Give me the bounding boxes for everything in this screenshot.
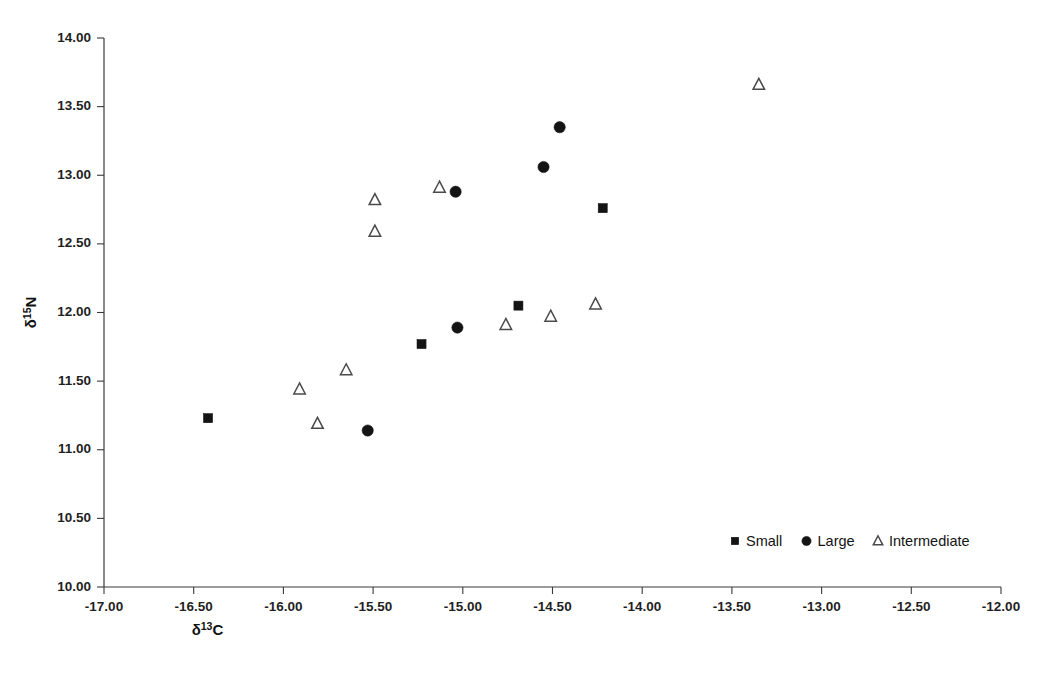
y-axis-title-base: δ	[22, 319, 39, 328]
data-point-large	[450, 186, 461, 197]
data-point-intermediate	[590, 298, 602, 309]
y-tick-label: 13.50	[57, 98, 91, 113]
legend-marker-intermediate	[873, 536, 882, 545]
x-tick-label: -13.00	[802, 599, 840, 614]
x-tick-label: -13.50	[713, 599, 751, 614]
x-axis-title-element: C	[212, 621, 223, 638]
x-axis: -17.00-16.50-16.00-15.50-15.00-14.50-14.…	[85, 587, 1020, 614]
data-point-small	[514, 301, 523, 310]
data-point-small	[417, 340, 426, 349]
data-point-intermediate	[434, 181, 446, 192]
y-axis-title-superscript: 15	[21, 307, 33, 319]
x-axis-title-superscript: 13	[201, 620, 213, 632]
data-points-layer	[204, 78, 765, 436]
legend-marker-large	[802, 536, 811, 545]
legend-label-large: Large	[818, 533, 855, 549]
x-tick-label: -12.50	[892, 599, 930, 614]
y-tick-label: 13.00	[57, 167, 91, 182]
data-point-intermediate	[294, 383, 306, 394]
series-intermediate	[294, 78, 765, 428]
data-point-intermediate	[340, 364, 352, 375]
x-tick-label: -16.50	[175, 599, 213, 614]
x-tick-label: -15.50	[354, 599, 392, 614]
x-tick-label: -16.00	[264, 599, 302, 614]
y-tick-label: 11.00	[58, 441, 91, 456]
x-tick-label: -14.00	[623, 599, 661, 614]
y-axis-title-element: N	[22, 297, 39, 308]
data-point-intermediate	[753, 78, 765, 89]
data-point-small	[598, 204, 607, 213]
x-tick-label: -14.50	[533, 599, 571, 614]
y-tick-label: 11.50	[58, 373, 91, 388]
scatter-chart: 10.0010.5011.0011.5012.0012.5013.0013.50…	[0, 0, 1047, 677]
data-point-large	[554, 122, 565, 133]
x-tick-label: -12.00	[982, 599, 1020, 614]
data-point-intermediate	[369, 194, 381, 205]
x-axis-title: δ13C	[192, 620, 224, 638]
x-axis-title-base: δ	[192, 621, 201, 638]
y-tick-label: 12.50	[57, 235, 91, 250]
y-axis: 10.0010.5011.0011.5012.0012.5013.0013.50…	[57, 30, 104, 594]
data-point-large	[538, 161, 549, 172]
y-tick-label: 12.00	[57, 304, 91, 319]
data-point-intermediate	[312, 417, 324, 428]
data-point-intermediate	[545, 310, 557, 321]
legend-label-intermediate: Intermediate	[889, 533, 970, 549]
legend-label-small: Small	[746, 533, 782, 549]
data-point-intermediate	[369, 225, 381, 236]
data-point-large	[362, 425, 373, 436]
data-point-small	[204, 414, 213, 423]
y-axis-title: δ15N	[21, 297, 39, 329]
y-axis-title-group: δ15N	[21, 297, 39, 329]
chart-canvas: 10.0010.5011.0011.5012.0012.5013.0013.50…	[0, 0, 1047, 677]
legend-marker-small	[731, 537, 738, 544]
y-tick-label: 14.00	[57, 30, 91, 45]
y-tick-label: 10.50	[57, 510, 91, 525]
data-point-large	[452, 322, 463, 333]
y-tick-label: 10.00	[57, 579, 91, 594]
x-tick-label: -17.00	[85, 599, 123, 614]
x-tick-label: -15.00	[444, 599, 482, 614]
series-small	[204, 204, 608, 423]
data-point-intermediate	[500, 318, 512, 329]
chart-legend: SmallLargeIntermediate	[731, 533, 969, 549]
series-large	[362, 122, 565, 437]
